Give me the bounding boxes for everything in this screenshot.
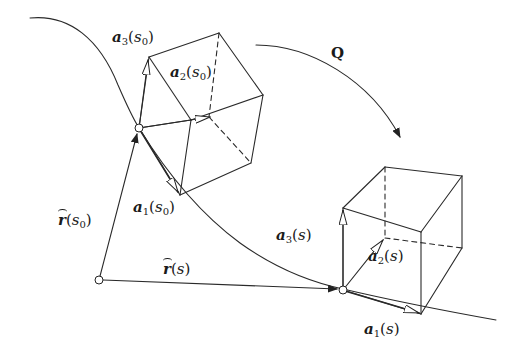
label-r-s: r(s) <box>163 262 190 277</box>
vector-a2-s0 <box>139 117 210 128</box>
label-a1-s0: a1(s0) <box>133 200 175 217</box>
vector-a1-s0 <box>140 130 178 192</box>
vector-a1-s <box>345 291 419 313</box>
point-origin <box>95 276 103 284</box>
position-vector-r-s <box>103 280 337 289</box>
label-a2-s: a2(s) <box>368 249 404 266</box>
vector-a3-s0 <box>139 60 148 128</box>
cube-s0 <box>139 33 263 195</box>
point-r-s <box>339 286 347 294</box>
label-a1-s: a1(s) <box>364 322 400 339</box>
label-r-s0: r(s0) <box>58 213 92 230</box>
point-r-s0 <box>135 124 143 132</box>
cube-s <box>343 167 462 314</box>
label-a2-s0: a2(s0) <box>170 65 212 82</box>
label-rotation-q: Q <box>331 46 344 61</box>
label-a3-s: a3(s) <box>276 228 312 245</box>
position-vector-r-s0 <box>99 134 137 280</box>
label-a3-s0: a3(s0) <box>112 30 154 47</box>
frame-rotation-diagram <box>0 0 525 358</box>
rotation-arc-q <box>256 45 400 137</box>
